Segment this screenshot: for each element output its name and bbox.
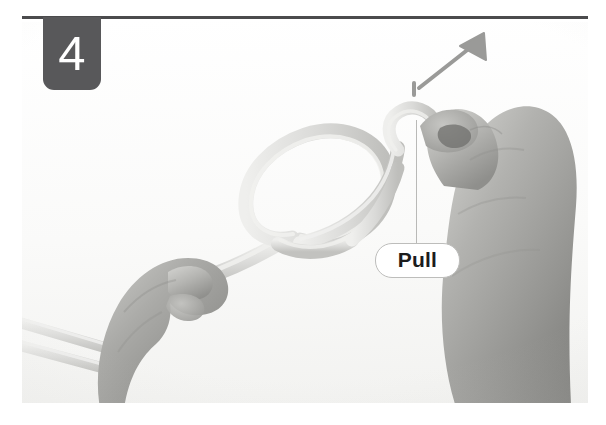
header-divider xyxy=(22,16,588,19)
step-number-badge: 4 xyxy=(43,17,101,90)
instruction-step-page: 4 Pull xyxy=(0,0,606,425)
direction-arrow xyxy=(414,33,486,95)
callout-leader-line xyxy=(416,120,417,243)
rope-loop xyxy=(246,131,398,252)
pull-callout-label: Pull xyxy=(375,243,460,278)
step-photo xyxy=(22,22,588,403)
photo-artwork xyxy=(22,22,588,403)
left-hand xyxy=(98,258,228,403)
